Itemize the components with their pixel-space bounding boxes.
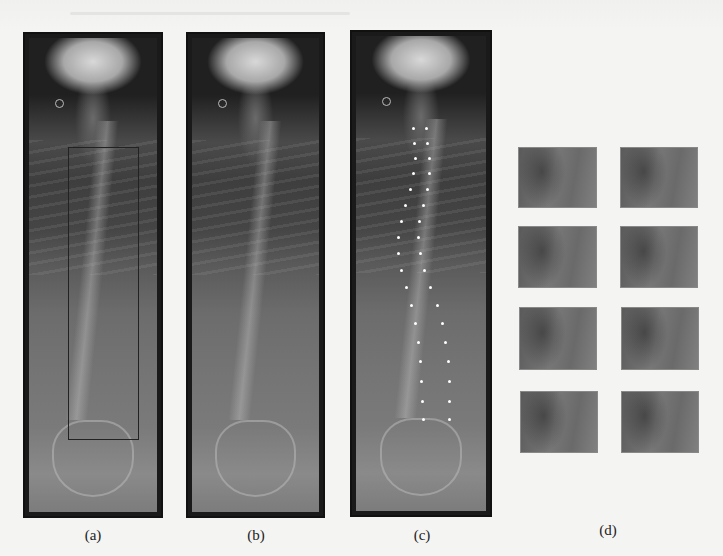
vertebra-patch-2: [620, 147, 698, 208]
vertebra-patch-1: [518, 147, 597, 208]
bleed-text-line: [70, 12, 350, 15]
vertebra-patch-8: [621, 391, 699, 453]
marker-icon: [55, 99, 64, 108]
spine-bounding-box: [68, 147, 139, 440]
panel-a-xray: [23, 32, 163, 518]
page-top-bleed: [0, 0, 723, 30]
pelvis: [215, 420, 296, 497]
pelvis: [380, 418, 463, 495]
caption-d: (d): [588, 522, 628, 539]
panel-c-xray: [350, 30, 492, 517]
caption-c: (c): [402, 527, 442, 544]
marker-icon: [218, 99, 227, 108]
vertebra-patch-3: [518, 226, 597, 288]
panel-b-xray: [186, 32, 325, 518]
caption-a: (a): [73, 527, 113, 544]
vertebra-patch-7: [520, 391, 598, 453]
vertebra-patch-6: [621, 307, 699, 370]
caption-b: (b): [236, 527, 276, 544]
vertebra-patch-4: [620, 226, 698, 288]
vertebra-patch-5: [519, 307, 597, 370]
